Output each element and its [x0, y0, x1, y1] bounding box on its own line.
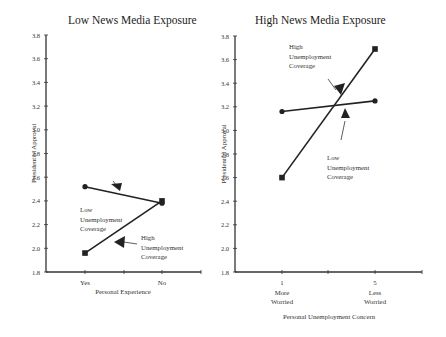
- y-tick-label: 2.0: [32, 245, 40, 252]
- y-tick-label: 2.2: [221, 221, 229, 228]
- y-tick-label: 3.8: [32, 32, 40, 39]
- right-chart: 3.83.63.43.23.02.82.62.42.22.01.81MoreWo…: [220, 33, 422, 321]
- circle-marker: [279, 109, 284, 114]
- y-tick-label: 2.4: [32, 197, 41, 204]
- annotation-label: Low: [327, 154, 340, 161]
- x-category-label: 5: [373, 279, 377, 286]
- annotation-label: Coverage: [289, 62, 315, 69]
- annotation-label: Low: [80, 206, 93, 213]
- arrowhead-icon: [341, 108, 350, 118]
- annotation-label: High: [289, 43, 303, 50]
- y-tick-label: 3.4: [32, 79, 41, 86]
- square-marker: [82, 250, 88, 256]
- y-tick-label: 1.8: [32, 269, 40, 276]
- annotation-label: Coverage: [141, 253, 167, 260]
- x-axis-label: Personal Experience: [95, 288, 151, 295]
- arrowhead-icon: [114, 236, 125, 248]
- annotation-arrow-line: [124, 242, 137, 244]
- x-category-label: Worried: [364, 298, 387, 305]
- annotation-label: Coverage: [327, 173, 353, 180]
- y-tick-label: 1.8: [221, 269, 229, 276]
- x-category-label: More: [275, 289, 290, 296]
- circle-marker: [82, 184, 87, 189]
- annotation-label: High: [141, 234, 155, 241]
- x-category-label: No: [158, 279, 167, 286]
- y-tick-label: 3.6: [32, 55, 41, 62]
- y-tick-label: 3.8: [221, 33, 229, 40]
- y-tick-label: 2.4: [221, 198, 230, 205]
- y-tick-label: 3.2: [221, 103, 229, 110]
- annotation-label: Unemployment: [327, 164, 369, 171]
- y-tick-label: 2.0: [221, 245, 229, 252]
- x-category-label: Worried: [271, 298, 294, 305]
- chart-canvas: 3.83.63.43.23.02.82.62.42.22.01.8YesNoPe…: [0, 0, 446, 337]
- annotation-arrow-line: [341, 121, 345, 140]
- y-tick-label: 2.2: [32, 221, 40, 228]
- y-tick-label: 3.6: [221, 56, 230, 63]
- annotation-label: Unemployment: [80, 216, 122, 223]
- circle-marker: [372, 98, 377, 103]
- y-axis-label: Presidential Approval: [30, 124, 37, 183]
- x-category-label: Yes: [80, 279, 90, 286]
- x-category-label: Less: [369, 289, 382, 296]
- x-category-label: 1: [280, 279, 283, 286]
- annotation-label: Unemployment: [289, 53, 331, 60]
- x-axis-label: Personal Unemployment Concern: [283, 313, 376, 320]
- y-tick-label: 3.2: [32, 103, 40, 110]
- series-line: [282, 101, 375, 112]
- square-marker: [279, 175, 285, 181]
- left-chart: 3.83.63.43.23.02.82.62.42.22.01.8YesNoPe…: [30, 32, 201, 296]
- y-tick-label: 3.4: [221, 80, 230, 87]
- annotation-label: Coverage: [80, 225, 106, 232]
- square-marker: [372, 46, 378, 52]
- annotation-arrow-line: [328, 79, 336, 90]
- annotation-label: Unemployment: [141, 244, 183, 251]
- y-axis-label: Presidential Approval: [220, 124, 227, 183]
- square-marker: [159, 198, 165, 204]
- series-line: [85, 187, 162, 204]
- arrowhead-icon: [111, 183, 122, 191]
